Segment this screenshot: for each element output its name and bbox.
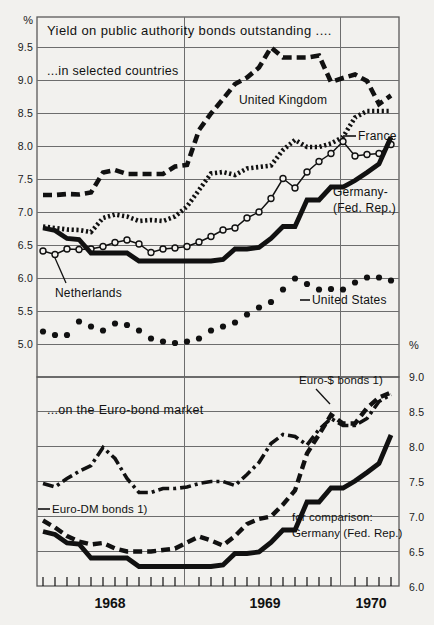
y-tick-5-5: 5.5: [18, 305, 33, 317]
y2-tick-7-0: 7.0: [409, 511, 424, 523]
label-united-kingdom: United Kingdom: [239, 93, 327, 107]
y-tick-8-5: 8.5: [18, 107, 33, 119]
label-germany-lower: Germany (Fed. Rep.): [292, 527, 403, 539]
y2-tick-6-0: 6.0: [409, 581, 424, 593]
chart-subtitle-bottom: ...on the Euro-bond market: [47, 403, 204, 417]
label-netherlands: Netherlands: [55, 286, 122, 300]
y2-tick-6-5: 6.5: [409, 546, 424, 558]
y-tick-6-0: 6.0: [18, 272, 33, 284]
label-france: France: [358, 129, 397, 143]
label-germany-upper-line1: Germany-: [333, 185, 388, 199]
label-for-comparison: for comparison:: [292, 511, 373, 523]
unit-percent-right: %: [409, 339, 419, 351]
label-euro-dollar-bonds: Euro-$ bonds 1): [299, 374, 383, 386]
y-tick-5-0: 5.0: [18, 338, 33, 350]
y-tick-9-0: 9.0: [18, 74, 33, 86]
y-tick-8-0: 8.0: [18, 140, 33, 152]
bond-yield-figure: 9.5 9.0 8.5 8.0 7.5 7.0 6.5 6.0 5.5 5.0 …: [0, 0, 434, 625]
y2-tick-9-0: 9.0: [409, 371, 424, 383]
figure-root: 9.5 9.0 8.5 8.0 7.5 7.0 6.5 6.0 5.5 5.0 …: [0, 0, 434, 625]
x-tick-label-1969: 1969: [249, 595, 280, 611]
y2-tick-7-5: 7.5: [409, 476, 424, 488]
chart-title: Yield on public authority bonds outstand…: [47, 23, 332, 38]
x-tick-label-1968: 1968: [94, 595, 125, 611]
chart-subtitle-top: ...in selected countries: [47, 64, 179, 78]
y2-tick-8-5: 8.5: [409, 406, 424, 418]
y-tick-7-5: 7.5: [18, 173, 33, 185]
y2-tick-8-0: 8.0: [409, 441, 424, 453]
unit-percent-left: %: [23, 14, 33, 26]
label-euro-dm-bonds: Euro-DM bonds 1): [52, 503, 148, 515]
y-tick-9-5: 9.5: [18, 41, 33, 53]
label-germany-upper-line2: (Fed. Rep.): [333, 201, 396, 215]
x-tick-label-1970: 1970: [355, 595, 386, 611]
y-tick-7-0: 7.0: [18, 206, 33, 218]
label-united-states: United States: [312, 293, 387, 307]
y-tick-6-5: 6.5: [18, 239, 33, 251]
